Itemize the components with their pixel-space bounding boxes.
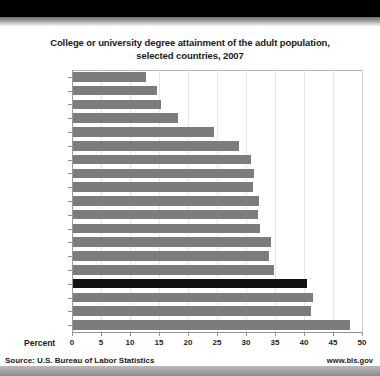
bar-row: Korea, Rep. of (72, 263, 362, 277)
gridline (362, 70, 363, 332)
bar-row: Germany (72, 125, 362, 139)
bar (73, 182, 253, 192)
y-tick-mark (68, 242, 72, 243)
y-tick-mark (68, 132, 72, 133)
bar (73, 141, 239, 151)
bar-row: Italy (72, 70, 362, 84)
bar-row: France (72, 139, 362, 153)
x-tick-label: 15 (147, 338, 171, 347)
bar-row: Austria (72, 111, 362, 125)
bar (73, 210, 258, 220)
y-tick-mark (68, 77, 72, 78)
x-tick-label: 25 (205, 338, 229, 347)
x-tick-label: 0 (60, 338, 84, 347)
top-gray-band (0, 17, 380, 26)
bar-row: Norway (72, 249, 362, 263)
bar (73, 169, 254, 179)
top-black-band (0, 0, 380, 17)
bar (73, 127, 214, 137)
bar-row: Portugal (72, 84, 362, 98)
plot-area: ItalyPortugalMexicoAustriaGermanyFranceS… (72, 70, 362, 332)
bottom-gray-band (0, 366, 380, 376)
x-axis-label: Percent (24, 338, 55, 348)
y-tick-mark (68, 187, 72, 188)
x-tick-label: 40 (292, 338, 316, 347)
bar-row: Mexico (72, 98, 362, 112)
bar (73, 279, 307, 289)
y-tick-mark (68, 118, 72, 119)
bar (73, 251, 269, 261)
x-tick-label: 10 (118, 338, 142, 347)
bar-row: United Kingdom (72, 222, 362, 236)
bar-row: New Zealand (72, 304, 362, 318)
x-tick-mark (188, 332, 189, 336)
bar (73, 306, 311, 316)
y-tick-mark (68, 173, 72, 174)
y-tick-mark (68, 270, 72, 271)
chart-figure: College or university degree attainment … (0, 26, 380, 366)
source-text: Source: U.S. Bureau of Labor Statistics (5, 356, 154, 365)
chart-title-line-2: selected countries, 2007 (18, 49, 362, 62)
x-tick-mark (304, 332, 305, 336)
x-tick-label: 30 (234, 338, 258, 347)
bar (73, 100, 161, 110)
chart-title-line-1: College or university degree attainment … (18, 36, 362, 49)
bar-row: Netherlands (72, 167, 362, 181)
y-tick-mark (68, 256, 72, 257)
bar-row: Japan (72, 291, 362, 305)
bar (73, 196, 259, 206)
bar-row: United States (72, 277, 362, 291)
y-tick-mark (68, 146, 72, 147)
y-tick-mark (68, 325, 72, 326)
x-tick-mark (217, 332, 218, 336)
bar (73, 320, 350, 330)
chart-screenshot: College or university degree attainment … (0, 0, 380, 376)
x-tick-mark (130, 332, 131, 336)
y-tick-mark (68, 91, 72, 92)
y-tick-mark (68, 215, 72, 216)
bar (73, 224, 260, 234)
y-tick-mark (68, 201, 72, 202)
x-tick-label: 20 (176, 338, 200, 347)
x-tick-label: 35 (263, 338, 287, 347)
bar (73, 237, 271, 247)
bar (73, 155, 251, 165)
bar-row: Australia (72, 235, 362, 249)
source-url[interactable]: www.bls.gov (327, 356, 373, 365)
x-tick-label: 5 (89, 338, 113, 347)
x-tick-mark (362, 332, 363, 336)
bar (73, 72, 146, 82)
bar-row: Denmark (72, 194, 362, 208)
y-tick-mark (68, 284, 72, 285)
x-tick-mark (246, 332, 247, 336)
x-tick-mark (101, 332, 102, 336)
bar-row: Canada (72, 318, 362, 332)
bar (73, 113, 178, 123)
x-tick-mark (159, 332, 160, 336)
y-tick-mark (68, 160, 72, 161)
y-tick-mark (68, 298, 72, 299)
chart-title: College or university degree attainment … (18, 36, 362, 62)
x-tick-label: 45 (321, 338, 345, 347)
bar-row: Spain (72, 153, 362, 167)
y-tick-mark (68, 104, 72, 105)
bar (73, 293, 313, 303)
bar (73, 265, 274, 275)
y-tick-mark (68, 229, 72, 230)
x-tick-mark (72, 332, 73, 336)
bar (73, 86, 157, 96)
bar-row: Ireland (72, 208, 362, 222)
x-tick-mark (333, 332, 334, 336)
x-tick-label: 50 (350, 338, 374, 347)
x-tick-mark (275, 332, 276, 336)
bar-row: Sweden (72, 180, 362, 194)
y-tick-mark (68, 311, 72, 312)
